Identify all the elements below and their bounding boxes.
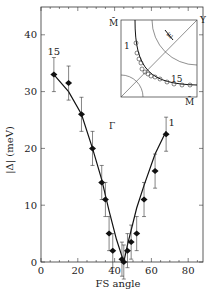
- svg-text:1: 1: [124, 41, 130, 51]
- svg-text:M̄: M̄: [185, 96, 194, 107]
- svg-text:0: 0: [38, 265, 44, 276]
- x-axis-label: FS angle: [96, 278, 141, 289]
- svg-text:80: 80: [182, 265, 195, 276]
- svg-text:1: 1: [168, 117, 174, 128]
- svg-text:Y: Y: [199, 15, 207, 25]
- svg-text:10: 10: [24, 200, 37, 211]
- svg-text:20: 20: [71, 265, 84, 276]
- svg-text:60: 60: [145, 265, 158, 276]
- chart: 020406080010203040 FS angle |Δ| (meV) 15…: [0, 0, 210, 294]
- svg-text:Γ: Γ: [109, 121, 115, 131]
- svg-text:40: 40: [108, 265, 121, 276]
- y-axis-label: |Δ| (meV): [4, 126, 16, 174]
- svg-text:30: 30: [24, 86, 37, 97]
- svg-text:40: 40: [24, 29, 37, 40]
- inset-diagram: E M̄ Y 1 15 Γ M̄: [109, 15, 207, 131]
- svg-text:15: 15: [48, 46, 61, 57]
- svg-text:15: 15: [171, 74, 183, 84]
- svg-text:20: 20: [24, 143, 37, 154]
- svg-text:0: 0: [31, 257, 37, 268]
- svg-text:M̄: M̄: [109, 17, 118, 28]
- chart-svg: 020406080010203040 FS angle |Δ| (meV) 15…: [0, 0, 210, 294]
